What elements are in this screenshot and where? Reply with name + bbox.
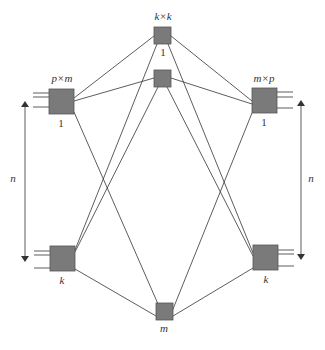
egress-last-label: k xyxy=(264,273,269,285)
clos-network-diagram: p×m 1 k k×k 1 m m×p 1 k n n xyxy=(0,0,325,350)
egress-size-label: m×p xyxy=(254,72,275,84)
left-dimension-label: n xyxy=(10,172,16,184)
port-stubs xyxy=(33,92,294,268)
egress-switch-k xyxy=(253,245,278,270)
ingress-size-label: p×m xyxy=(52,72,73,84)
egress-first-label: 1 xyxy=(261,116,267,128)
middle-size-label: k×k xyxy=(154,10,171,22)
middle-switch-1 xyxy=(154,27,171,44)
ingress-last-label: k xyxy=(60,274,65,286)
ingress-switch-k xyxy=(50,246,75,271)
middle-last-label: m xyxy=(160,322,168,334)
ingress-switch-1 xyxy=(49,89,74,114)
right-dimension-label: n xyxy=(308,172,314,184)
middle-first-label: 1 xyxy=(160,46,166,58)
egress-switch-1 xyxy=(252,88,277,113)
middle-switch-2 xyxy=(154,70,171,87)
ingress-first-label: 1 xyxy=(58,117,64,129)
middle-switch-m xyxy=(156,303,173,320)
